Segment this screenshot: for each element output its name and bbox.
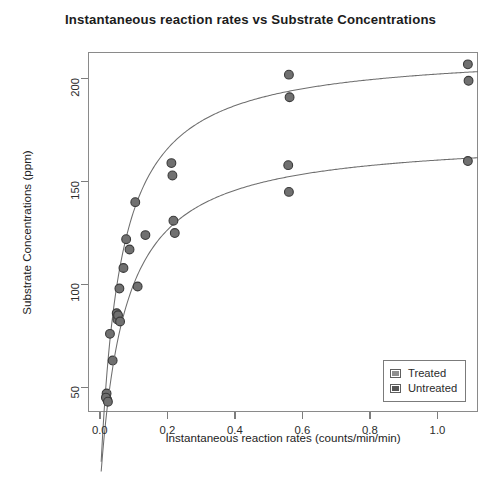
fitted-curve-untreated: [101, 158, 478, 472]
data-point: [133, 282, 142, 291]
legend-item-treated[interactable]: Treated: [390, 366, 457, 381]
data-point: [116, 317, 125, 326]
y-axis-tick-label: 150: [69, 181, 81, 200]
x-axis-tick-mark: [437, 412, 438, 419]
x-axis-tick-mark: [302, 412, 303, 419]
fitted-curve-treated: [101, 72, 478, 462]
data-point: [167, 159, 176, 168]
chart-legend: TreatedUntreated: [383, 360, 466, 402]
data-point: [108, 356, 117, 365]
legend-swatch-icon: [390, 384, 401, 393]
data-point: [141, 231, 150, 240]
legend-swatch-icon: [390, 369, 401, 378]
y-axis-tick-mark: [81, 181, 88, 182]
x-axis-label: Instantaneous reaction rates (counts/min…: [88, 431, 478, 444]
y-axis-tick-mark: [81, 284, 88, 285]
data-point: [463, 60, 472, 69]
y-axis-label-text: Substrate Concentrations (ppm): [20, 150, 33, 314]
legend-swatch-inner: [391, 385, 400, 392]
y-axis-tick-label: 50: [69, 386, 81, 399]
data-point: [125, 245, 134, 254]
plot-area: 501001502000.00.20.40.60.81.0: [88, 52, 478, 412]
chart-figure: Instantaneous reaction rates vs Substrat…: [0, 0, 501, 477]
plot-svg: [88, 52, 478, 412]
data-point: [168, 171, 177, 180]
data-point: [285, 70, 294, 79]
y-axis-tick-label: 200: [69, 78, 81, 97]
legend-label: Treated: [408, 368, 446, 379]
data-point: [104, 397, 113, 406]
data-point: [122, 235, 131, 244]
legend-swatch-inner: [391, 370, 400, 377]
data-point: [285, 187, 294, 196]
x-axis-tick-mark: [234, 412, 235, 419]
data-point: [119, 264, 128, 273]
chart-title: Instantaneous reaction rates vs Substrat…: [0, 12, 501, 27]
y-axis-tick-mark: [81, 387, 88, 388]
legend-label: Untreated: [408, 383, 457, 394]
data-point: [284, 161, 293, 170]
x-axis-tick-mark: [99, 412, 100, 419]
data-point: [170, 229, 179, 238]
data-point: [169, 216, 178, 225]
data-point: [464, 76, 473, 85]
data-point: [106, 329, 115, 338]
x-axis-tick-mark: [369, 412, 370, 419]
y-axis-tick-mark: [81, 78, 88, 79]
y-axis-label: Substrate Concentrations (ppm): [18, 52, 34, 412]
legend-item-untreated[interactable]: Untreated: [390, 381, 457, 396]
data-point: [131, 198, 140, 207]
data-point: [115, 284, 124, 293]
y-axis-tick-label: 100: [69, 283, 81, 302]
data-point: [285, 93, 294, 102]
data-point: [463, 157, 472, 166]
x-axis-tick-mark: [167, 412, 168, 419]
